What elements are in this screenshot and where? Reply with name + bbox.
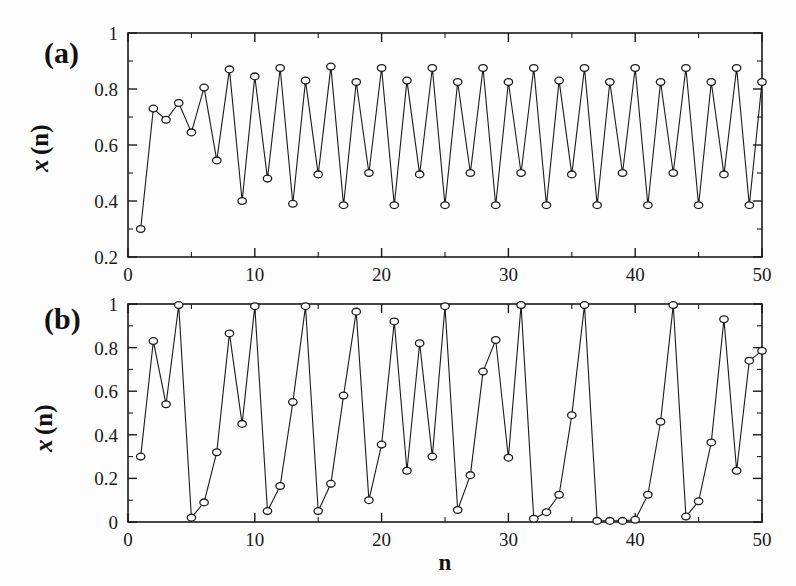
- data-point-marker: [542, 202, 550, 209]
- data-point-marker: [694, 202, 702, 209]
- xtick-label: 40: [626, 529, 645, 550]
- ytick-label: 1: [109, 294, 119, 315]
- data-point-marker: [669, 170, 677, 177]
- data-point-marker: [149, 338, 157, 345]
- ytick-label: 0.6: [94, 135, 118, 156]
- data-point-marker: [479, 368, 487, 375]
- panel-b-ylabel: x (n): [30, 404, 58, 453]
- data-point-marker: [251, 73, 259, 80]
- data-point-marker: [745, 202, 753, 209]
- data-point-marker: [656, 418, 664, 425]
- panel-b-plot-frame: [128, 304, 762, 522]
- data-point-marker: [631, 516, 639, 523]
- data-point-marker: [492, 202, 500, 209]
- data-point-marker: [187, 514, 195, 521]
- xtick-label: 50: [753, 264, 772, 285]
- data-point-marker: [694, 498, 702, 505]
- ytick-label: 0.4: [94, 191, 118, 212]
- ytick-label: 0.8: [94, 338, 118, 359]
- data-point-marker: [732, 467, 740, 474]
- data-point-marker: [390, 318, 398, 325]
- data-point-marker: [530, 65, 538, 72]
- ytick-label: 0.6: [94, 381, 118, 402]
- data-point-marker: [758, 347, 766, 354]
- data-point-marker: [720, 316, 728, 323]
- xtick-label: 10: [245, 529, 264, 550]
- data-point-marker: [200, 84, 208, 91]
- data-point-marker: [504, 79, 512, 86]
- data-point-marker: [390, 202, 398, 209]
- data-point-marker: [669, 302, 677, 309]
- data-point-marker: [517, 170, 525, 177]
- data-point-marker: [365, 497, 373, 504]
- xtick-label: 20: [372, 264, 391, 285]
- data-point-marker: [504, 454, 512, 461]
- ytick-label: 0.2: [94, 247, 118, 268]
- panel-a-xtick-labels: 01020304050: [123, 264, 771, 285]
- data-point-marker: [656, 79, 664, 86]
- data-point-marker: [682, 513, 690, 520]
- panel-b-ylabel-arg: (n): [30, 404, 58, 435]
- data-point-marker: [314, 508, 322, 515]
- data-point-marker: [352, 308, 360, 315]
- xtick-label: 0: [123, 264, 133, 285]
- data-point-marker: [542, 509, 550, 516]
- data-point-marker: [758, 79, 766, 86]
- data-point-marker: [618, 518, 626, 525]
- data-point-marker: [377, 441, 385, 448]
- data-point-marker: [339, 202, 347, 209]
- data-point-marker: [327, 63, 335, 70]
- data-point-marker: [428, 453, 436, 460]
- data-point-marker: [517, 302, 525, 309]
- panel-b-label: (b): [44, 302, 81, 336]
- data-point-marker: [555, 77, 563, 84]
- data-point-marker: [732, 65, 740, 72]
- panel-a-ylabel: x (n): [26, 124, 54, 173]
- data-point-marker: [251, 303, 259, 310]
- figure-container: (a) x (n) 0.20.40.60.81 01020304050 (b) …: [0, 0, 796, 586]
- data-point-marker: [530, 515, 538, 522]
- data-point-marker: [162, 116, 170, 123]
- data-point-marker: [162, 401, 170, 408]
- panel-b-ticks: [128, 304, 762, 522]
- data-point-marker: [415, 340, 423, 347]
- data-point-marker: [327, 480, 335, 487]
- data-point-marker: [618, 170, 626, 177]
- data-point-marker: [441, 303, 449, 310]
- data-point-marker: [441, 202, 449, 209]
- data-point-marker: [301, 77, 309, 84]
- data-point-marker: [289, 200, 297, 207]
- data-point-marker: [580, 302, 588, 309]
- data-point-marker: [555, 491, 563, 498]
- data-point-marker: [453, 79, 461, 86]
- data-point-marker: [149, 105, 157, 112]
- data-point-marker: [466, 170, 474, 177]
- xtick-label: 40: [626, 264, 645, 285]
- panel-a-ylabel-arg: (n): [26, 124, 54, 155]
- data-point-marker: [365, 170, 373, 177]
- panel-a: (a) x (n) 0.20.40.60.81 01020304050: [26, 23, 772, 285]
- data-point-marker: [175, 302, 183, 309]
- panel-a-ticks: [128, 33, 762, 257]
- x-axis-label: n: [439, 550, 452, 575]
- data-point-marker: [466, 472, 474, 479]
- ytick-label: 0.4: [94, 425, 118, 446]
- xtick-label: 30: [499, 529, 518, 550]
- panel-a-plot-frame: [128, 33, 762, 257]
- panel-a-ytick-labels: 0.20.40.60.81: [94, 23, 118, 268]
- data-point-marker: [314, 171, 322, 178]
- data-point-marker: [276, 483, 284, 490]
- data-point-marker: [339, 392, 347, 399]
- data-point-marker: [682, 65, 690, 72]
- data-point-marker: [200, 499, 208, 506]
- data-point-marker: [606, 79, 614, 86]
- data-point-marker: [428, 65, 436, 72]
- panel-b-ylabel-symbol: x: [30, 440, 57, 454]
- data-point-marker: [225, 66, 233, 73]
- data-point-marker: [644, 202, 652, 209]
- data-point-marker: [568, 171, 576, 178]
- data-point-marker: [377, 65, 385, 72]
- data-point-marker: [301, 303, 309, 310]
- xtick-label: 30: [499, 264, 518, 285]
- panel-b-xtick-labels: 01020304050: [123, 529, 771, 550]
